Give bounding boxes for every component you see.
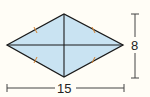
vertical-dimension-label: 8 <box>131 38 138 53</box>
horizontal-dimension-label: 15 <box>57 81 71 96</box>
rhombus-diagram: 8 15 <box>0 0 150 97</box>
